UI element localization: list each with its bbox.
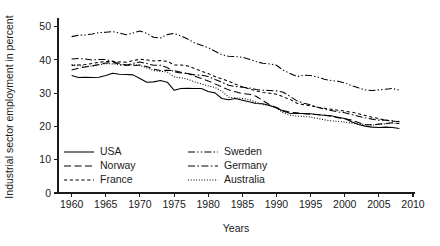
series-line-germany (72, 59, 400, 122)
y-tick-label: 10 (39, 153, 51, 165)
chart-figure: 01020304050 1960196519701975198019851990… (0, 0, 440, 246)
y-axis-title: Industrial sector employment in percent (3, 15, 15, 198)
legend-label-usa: USA (100, 145, 122, 157)
line-chart: 01020304050 1960196519701975198019851990… (0, 0, 440, 246)
x-tick-label: 1995 (299, 198, 323, 210)
x-tick-label: 1965 (94, 198, 118, 210)
legend-label-norway: Norway (100, 159, 136, 171)
x-tick-label: 1975 (162, 198, 186, 210)
series-line-sweden (72, 31, 400, 91)
series-layer (72, 31, 400, 128)
y-tick-label: 0 (45, 187, 51, 199)
series-line-norway (72, 63, 400, 125)
x-tick-label: 1960 (60, 198, 84, 210)
legend-label-france: France (100, 173, 133, 185)
x-tick-label: 1970 (128, 198, 152, 210)
x-axis-title: Years (223, 222, 249, 234)
y-tick-label: 30 (39, 87, 51, 99)
y-axis: 01020304050 (39, 18, 58, 199)
legend-label-australia: Australia (224, 173, 265, 185)
x-tick-label: 1990 (265, 198, 289, 210)
series-line-australia (72, 64, 400, 126)
x-tick-label: 1985 (231, 198, 255, 210)
x-tick-label: 1980 (197, 198, 221, 210)
x-tick-label: 2010 (401, 198, 425, 210)
chart-legend: USANorwayFranceSwedenGermanyAustralia (64, 145, 268, 185)
series-line-france (72, 59, 400, 121)
y-tick-label: 40 (39, 54, 51, 66)
x-tick-label: 2005 (367, 198, 391, 210)
y-tick-label: 50 (39, 20, 51, 32)
y-tick-label: 20 (39, 120, 51, 132)
legend-label-germany: Germany (224, 159, 268, 171)
legend-label-sweden: Sweden (224, 145, 262, 157)
x-tick-label: 2000 (333, 198, 357, 210)
x-axis: 1960196519701975198019851990199520002005… (58, 193, 425, 210)
